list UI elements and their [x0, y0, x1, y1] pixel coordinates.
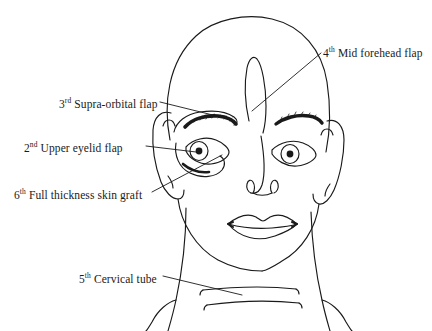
label-text: Upper eyelid flap — [38, 142, 123, 154]
cervical-tube-upper-tick-right — [296, 289, 299, 294]
right-ear-lobe — [325, 184, 330, 196]
left-neck-line — [168, 208, 186, 331]
mid-forehead-flap-outline — [245, 57, 266, 133]
cervical-tube-lower-tick-right — [299, 303, 302, 308]
supra-orbital-flap-outline — [174, 111, 237, 132]
lip-corner-right — [292, 222, 297, 227]
left-eyebrow — [185, 116, 236, 127]
cervical-tube-lower-tick — [204, 305, 207, 310]
label-supra-orbital-flap: 3rd Supra-orbital flap — [59, 98, 158, 110]
lip-line — [228, 224, 297, 228]
label-ordinal-suffix: nd — [30, 140, 38, 149]
leader-line-supra-orbital — [160, 102, 229, 119]
right-trapezius — [322, 300, 352, 331]
left-trapezius — [146, 300, 176, 331]
right-eye-pupil — [287, 151, 294, 158]
leader-line-mid-forehead — [252, 53, 321, 111]
cervical-tube-upper-tick — [200, 290, 203, 295]
right-neck-line — [311, 212, 330, 331]
label-full-thickness-skin-graft: 6th Full thickness skin graft — [14, 189, 142, 201]
right-ear-inner — [321, 129, 333, 135]
label-text: Supra-orbital flap — [71, 98, 157, 110]
leader-line-skin-graft — [152, 155, 222, 192]
left-eye-pupil — [196, 148, 203, 155]
cervical-tube-lower-line — [207, 301, 299, 305]
left-ear-inner — [163, 120, 175, 126]
label-cervical-tube: 5th Cervical tube — [79, 273, 157, 285]
leader-line-cervical-tube — [163, 276, 242, 295]
nose-left-nostril — [247, 180, 255, 193]
label-upper-eyelid-flap: 2nd Upper eyelid flap — [24, 142, 123, 154]
label-text: Mid forehead flap — [335, 47, 423, 59]
label-text: Cervical tube — [91, 273, 157, 285]
upper-lip — [228, 215, 297, 224]
label-mid-forehead-flap: 4th Mid forehead flap — [323, 47, 423, 59]
label-text: Full thickness skin graft — [26, 189, 142, 201]
head-outline — [167, 17, 329, 152]
nose-right-nostril — [271, 180, 279, 193]
left-jaw-line — [178, 199, 262, 271]
nose-bridge — [251, 136, 264, 193]
